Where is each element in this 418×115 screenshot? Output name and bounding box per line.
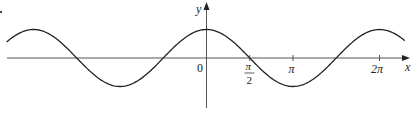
x-axis-label: x	[404, 60, 411, 74]
origin-label: 0	[197, 61, 203, 75]
tick-label-pi-over-2-numerator: π	[246, 60, 252, 72]
cosine-graph: y x 0 π 2 π 2π	[0, 0, 418, 115]
tick-label-2pi: 2π	[371, 62, 384, 76]
y-axis-label: y	[195, 2, 202, 16]
corner-mark	[0, 11, 2, 13]
tick-label-pi: π	[289, 62, 296, 76]
tick-label-pi-over-2-denominator: 2	[247, 74, 253, 86]
y-axis-arrow-icon	[204, 2, 210, 10]
